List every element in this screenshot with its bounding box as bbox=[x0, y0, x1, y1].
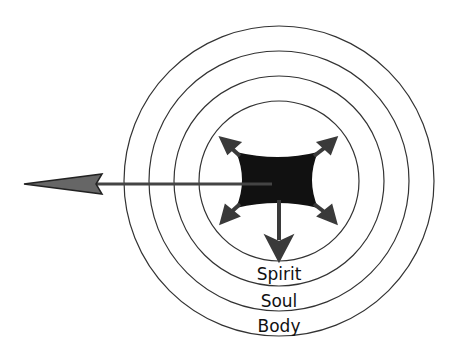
ring-label-body: Body bbox=[239, 316, 319, 336]
ring-label-spirit: Spirit bbox=[239, 264, 319, 284]
center-shape-icon bbox=[236, 152, 318, 208]
ring-label-soul: Soul bbox=[239, 291, 319, 311]
arrow-left-long-icon bbox=[24, 174, 102, 194]
diagram-canvas bbox=[0, 0, 453, 358]
diagram: Spirit Soul Body bbox=[0, 0, 453, 358]
arrow-down-icon bbox=[268, 238, 290, 259]
